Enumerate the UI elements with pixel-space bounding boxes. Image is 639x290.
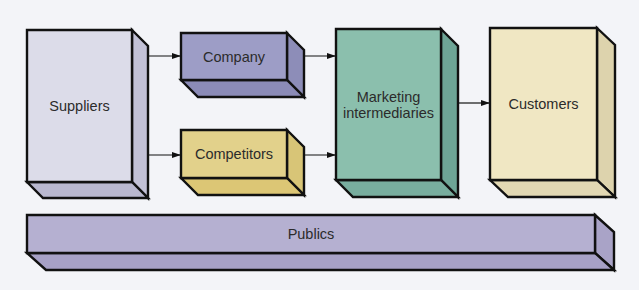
company-bottom-face [181,80,304,97]
box-customers [490,28,615,197]
competitors-front-face [181,130,287,178]
customers-side-face [597,28,615,197]
marketing-intermediaries-front-face [336,29,441,180]
box-publics [27,215,614,270]
publics-bottom-face [27,253,614,270]
suppliers-front-face [27,30,132,182]
box-suppliers [27,30,148,198]
marketing-intermediaries-bottom-face [336,180,458,197]
marketing-environment-diagram: SuppliersCompanyCompetitorsMarketinginte… [0,0,639,290]
box-company [181,33,304,97]
box-marketing-intermediaries [336,29,458,197]
diagram-canvas [0,0,639,290]
customers-front-face [490,28,597,180]
box-competitors [181,130,304,195]
competitors-bottom-face [181,178,304,195]
suppliers-side-face [132,30,148,198]
marketing-intermediaries-side-face [441,29,458,197]
customers-bottom-face [490,180,615,197]
publics-front-face [27,215,595,253]
company-front-face [181,33,287,80]
suppliers-bottom-face [27,182,148,198]
